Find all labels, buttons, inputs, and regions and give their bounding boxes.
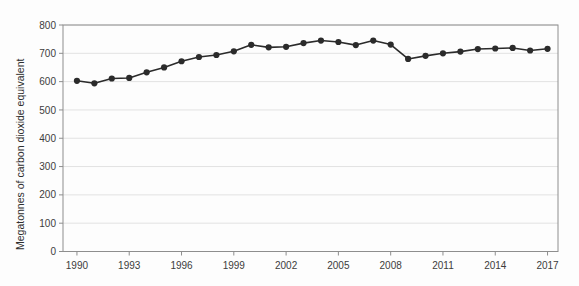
- x-tick-label: 1990: [66, 260, 89, 271]
- x-tick-label: 2017: [536, 260, 559, 271]
- y-tick-label: 200: [39, 189, 56, 200]
- x-tick-label: 1993: [118, 260, 141, 271]
- data-point: [388, 41, 394, 47]
- y-tick-label: 500: [39, 105, 56, 116]
- x-tick-label: 2002: [275, 260, 298, 271]
- data-point: [178, 58, 184, 64]
- x-tick-label: 2014: [484, 260, 507, 271]
- data-point: [318, 37, 324, 43]
- y-tick-label: 800: [39, 20, 56, 31]
- data-point: [213, 52, 219, 58]
- data-point: [492, 45, 498, 51]
- x-tick-label: 1996: [170, 260, 193, 271]
- y-tick-label: 0: [50, 246, 56, 257]
- data-series-markers: [74, 37, 551, 86]
- y-axis-title: Megatonnes of carbon dioxide equivalent: [14, 58, 26, 250]
- data-point: [405, 56, 411, 62]
- line-chart: 0100200300400500600700800 19901993199619…: [0, 0, 579, 286]
- x-tick-label: 2008: [380, 260, 403, 271]
- y-tick-label: 100: [39, 218, 56, 229]
- data-point: [457, 49, 463, 55]
- y-tick-label: 300: [39, 161, 56, 172]
- y-tick-label: 400: [39, 133, 56, 144]
- data-point: [248, 42, 254, 48]
- x-axis-ticks: 1990199319961999200220052008201120142017: [66, 252, 559, 271]
- data-point: [440, 50, 446, 56]
- data-point: [144, 69, 150, 75]
- data-point: [161, 64, 167, 70]
- data-point: [91, 80, 97, 86]
- data-point: [475, 46, 481, 52]
- gridlines: [63, 25, 558, 223]
- data-point: [109, 75, 115, 81]
- data-point: [527, 47, 533, 53]
- data-point: [196, 54, 202, 60]
- y-tick-label: 600: [39, 76, 56, 87]
- x-tick-label: 2005: [327, 260, 350, 271]
- y-tick-label: 700: [39, 48, 56, 59]
- data-point: [370, 37, 376, 43]
- data-point: [544, 46, 550, 52]
- data-point: [126, 75, 132, 81]
- x-tick-label: 2011: [432, 260, 454, 271]
- data-point: [300, 40, 306, 46]
- data-point: [283, 44, 289, 50]
- y-axis-ticks: 0100200300400500600700800: [39, 20, 63, 258]
- data-point: [510, 45, 516, 51]
- x-tick-label: 1999: [223, 260, 246, 271]
- data-point: [266, 44, 272, 50]
- data-point: [335, 39, 341, 45]
- data-point: [231, 48, 237, 54]
- data-point: [353, 42, 359, 48]
- data-point: [74, 78, 80, 84]
- chart-container: 0100200300400500600700800 19901993199619…: [0, 0, 579, 286]
- data-point: [422, 53, 428, 59]
